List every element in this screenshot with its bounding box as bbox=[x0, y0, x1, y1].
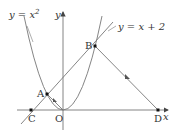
point-C-label: C bbox=[28, 113, 36, 124]
point-A-label: A bbox=[36, 88, 45, 99]
parallel-arrow-icon-AO bbox=[53, 98, 57, 102]
point-D-label: D bbox=[154, 113, 162, 124]
diagram-canvas: y = x2 y = x + 2 y x A B C D O bbox=[0, 0, 183, 133]
x-axis-label: x bbox=[163, 111, 169, 122]
point-C bbox=[30, 109, 33, 112]
y-axis-label: y bbox=[54, 9, 61, 20]
point-B bbox=[94, 45, 97, 48]
parallel-arrow-icon-BD bbox=[125, 74, 130, 79]
point-D bbox=[157, 109, 160, 112]
origin-label: O bbox=[55, 113, 63, 124]
line-label: y = x + 2 bbox=[117, 21, 165, 32]
diagram-svg: y = x2 y = x + 2 y x A B C D O bbox=[0, 0, 183, 133]
parabola-label: y = x2 bbox=[8, 8, 40, 20]
point-B-label: B bbox=[85, 40, 92, 51]
point-A bbox=[46, 93, 49, 96]
